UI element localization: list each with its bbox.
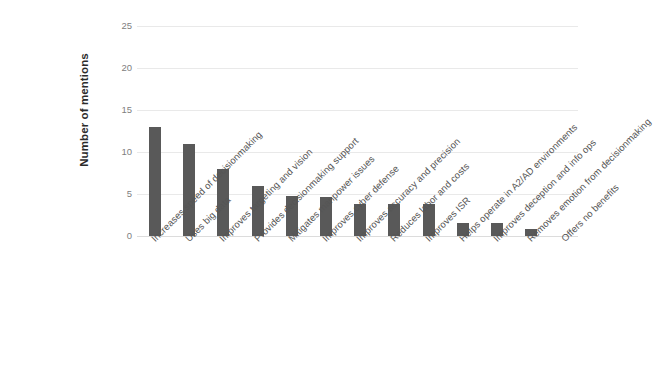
chart-title — [300, 0, 560, 2]
y-axis-tick-labels: 0510152025 — [90, 26, 132, 236]
y-axis-title: Number of mentions — [78, 25, 90, 195]
y-tick-label-15: 15 — [92, 104, 132, 115]
bar — [149, 127, 161, 236]
y-tick-label-25: 25 — [92, 20, 132, 31]
x-axis-category-labels: Increases speed of decisionmakingUses bi… — [0, 236, 586, 382]
y-tick-label-10: 10 — [92, 146, 132, 157]
y-tick-label-20: 20 — [92, 62, 132, 73]
y-tick-label-5: 5 — [92, 188, 132, 199]
